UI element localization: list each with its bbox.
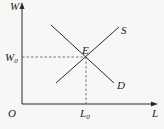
y-axis-label: W <box>10 0 20 12</box>
wage-equilibrium-label: W0 <box>5 51 18 65</box>
demand-label: D <box>116 79 125 91</box>
quantity-equilibrium-label: L0 <box>79 107 90 121</box>
x-axis-arrow-icon <box>151 102 158 107</box>
origin-label: O <box>8 107 16 119</box>
quantity-symbol: L <box>79 107 86 119</box>
x-axis-label: L <box>151 107 158 119</box>
wage-subscript: 0 <box>14 57 18 65</box>
labor-market-diagram: W L O S D E W0 L0 <box>0 0 164 129</box>
equilibrium-label: E <box>81 44 89 56</box>
y-axis-arrow-icon <box>20 2 25 9</box>
quantity-subscript: 0 <box>86 113 90 121</box>
supply-label: S <box>121 24 127 36</box>
